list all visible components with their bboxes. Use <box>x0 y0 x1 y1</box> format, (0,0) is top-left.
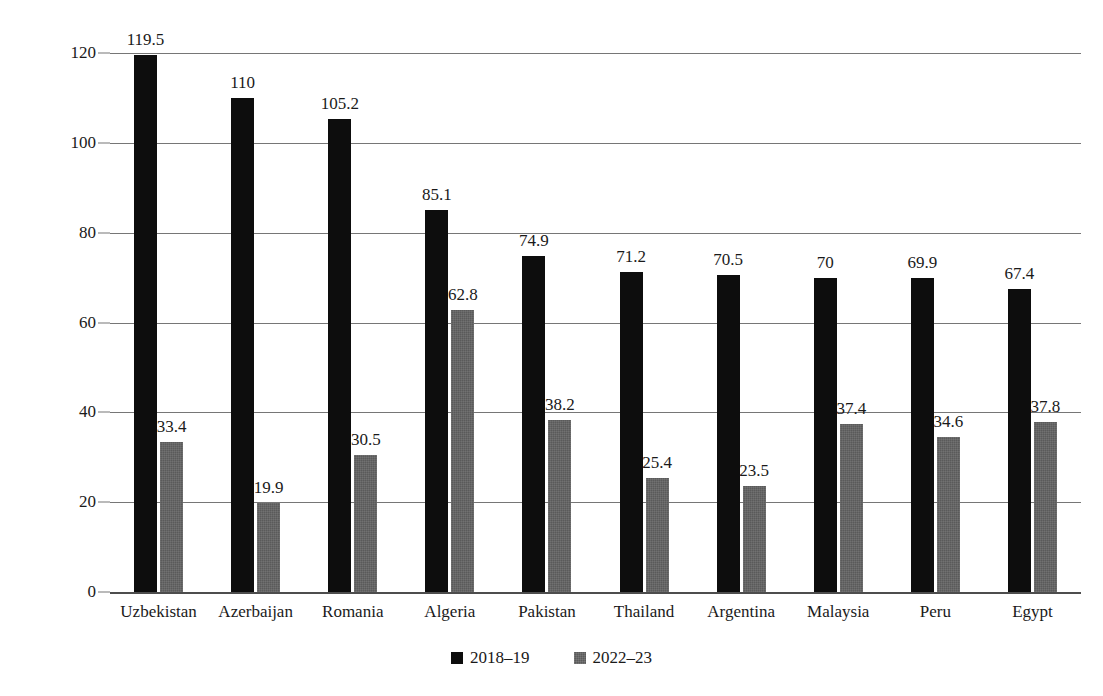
bar <box>814 278 837 592</box>
bar <box>620 272 643 592</box>
x-axis-label: Malaysia <box>807 602 869 622</box>
bar <box>646 478 669 592</box>
bar-value-label: 85.1 <box>422 185 452 205</box>
bar <box>522 256 545 592</box>
bar <box>937 437 960 592</box>
bar-value-label: 23.5 <box>739 461 769 481</box>
bar <box>354 455 377 592</box>
y-tick-mark-120 <box>98 53 110 54</box>
bar <box>134 55 157 592</box>
bar-value-label: 25.4 <box>642 453 672 473</box>
bar-value-label: 70.5 <box>713 250 743 270</box>
bar-value-label: 37.8 <box>1031 397 1061 417</box>
y-tick-label: 40 <box>36 402 96 422</box>
bar <box>231 98 254 592</box>
bar-value-label: 67.4 <box>1005 264 1035 284</box>
bar-value-label: 70 <box>817 253 834 273</box>
bar <box>328 119 351 592</box>
x-axis-label: Romania <box>322 602 383 622</box>
legend-label: 2018–19 <box>470 648 530 668</box>
gridline-0 <box>110 592 1081 594</box>
bar <box>1034 422 1057 592</box>
bar-value-label: 37.4 <box>836 399 866 419</box>
y-axis-title: Year-over-year Growth Rate (%) <box>44 0 80 30</box>
chart-legend: 2018–192022–23 <box>0 648 1103 668</box>
y-tick-mark-100 <box>98 142 110 143</box>
bar-value-label: 71.2 <box>616 247 646 267</box>
y-tick-label: 60 <box>36 313 96 333</box>
x-axis-label: Egypt <box>1012 602 1053 622</box>
bar-value-label: 69.9 <box>907 253 937 273</box>
bar-value-label: 105.2 <box>321 94 359 114</box>
bar-value-label: 38.2 <box>545 395 575 415</box>
bar-value-label: 19.9 <box>254 478 284 498</box>
x-axis-label: Peru <box>920 602 951 622</box>
bar-value-label: 33.4 <box>157 417 187 437</box>
y-tick-mark-60 <box>98 322 110 323</box>
y-tick-label: 80 <box>36 223 96 243</box>
gray-square-icon <box>574 652 586 664</box>
x-axis-label: Uzbekistan <box>120 602 196 622</box>
bar <box>1008 289 1031 592</box>
bar-value-label: 34.6 <box>933 412 963 432</box>
bar <box>840 424 863 592</box>
bar <box>911 278 934 592</box>
y-tick-mark-0 <box>98 592 110 593</box>
bar <box>425 210 448 592</box>
bar <box>257 503 280 592</box>
y-tick-label: 20 <box>36 492 96 512</box>
bar <box>717 275 740 592</box>
legend-label: 2022–23 <box>593 648 653 668</box>
x-axis-label: Argentina <box>707 602 775 622</box>
bar <box>451 310 474 592</box>
gridline-120 <box>110 53 1081 54</box>
bar-value-label: 119.5 <box>127 30 165 50</box>
y-tick-label: 0 <box>36 582 96 602</box>
plot-area: 020406080100120119.533.411019.9105.230.5… <box>110 53 1081 592</box>
x-axis-label: Azerbaijan <box>218 602 293 622</box>
bar <box>548 420 571 592</box>
y-tick-label: 120 <box>36 43 96 63</box>
bar-value-label: 30.5 <box>351 430 381 450</box>
legend-item: 2022–23 <box>574 648 653 668</box>
gridline-60 <box>110 323 1081 324</box>
y-tick-mark-20 <box>98 502 110 503</box>
x-axis-label: Thailand <box>614 602 674 622</box>
bar <box>160 442 183 592</box>
bar <box>743 486 766 592</box>
y-tick-mark-40 <box>98 412 110 413</box>
x-axis-label: Algeria <box>424 602 475 622</box>
gridline-100 <box>110 143 1081 144</box>
legend-item: 2018–19 <box>451 648 530 668</box>
y-tick-label: 100 <box>36 133 96 153</box>
x-axis-label: Pakistan <box>518 602 576 622</box>
bar-value-label: 110 <box>230 73 255 93</box>
bar-chart: Year-over-year Growth Rate (%) 020406080… <box>0 0 1103 696</box>
bar-value-label: 62.8 <box>448 285 478 305</box>
gridline-80 <box>110 233 1081 234</box>
bar-value-label: 74.9 <box>519 231 549 251</box>
black-square-icon <box>451 652 463 664</box>
gridline-20 <box>110 502 1081 503</box>
y-tick-mark-80 <box>98 232 110 233</box>
